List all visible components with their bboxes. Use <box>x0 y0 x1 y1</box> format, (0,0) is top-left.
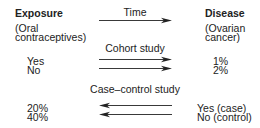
cohort-arrow-right-icon <box>99 66 172 71</box>
time-arrow-right-icon <box>99 18 172 23</box>
case-control-arrow-left-icon <box>99 112 172 117</box>
case-control-arrow-left-icon <box>99 103 172 108</box>
arrows-layer <box>0 0 260 128</box>
cohort-arrow-right-icon <box>99 57 172 62</box>
